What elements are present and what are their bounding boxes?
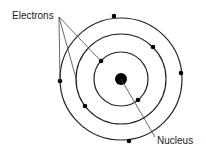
electron (179, 71, 184, 76)
electron (112, 14, 117, 19)
electron (127, 139, 132, 144)
electrons-label: Electrons (12, 11, 54, 21)
atom-diagram (0, 0, 206, 156)
nucleus-label: Nucleus (157, 136, 193, 146)
electron (83, 104, 88, 109)
electron (136, 98, 141, 103)
electron (151, 45, 156, 50)
